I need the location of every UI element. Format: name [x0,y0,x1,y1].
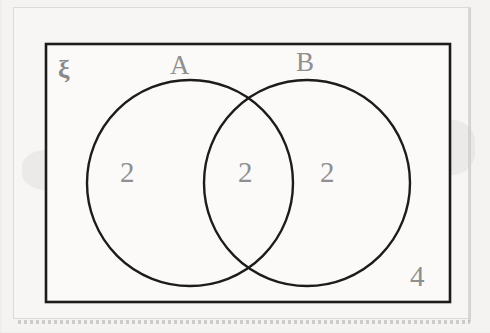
venn-diagram-page: ξ A B 2 2 2 4 [0,0,490,333]
region-count-b-only: 2 [320,158,335,187]
set-label-b: B [296,49,314,76]
set-label-a: A [170,52,190,79]
region-count-outside: 4 [410,262,425,291]
region-count-a-intersect-b: 2 [238,158,253,187]
region-count-a-only: 2 [120,158,135,187]
universal-set-symbol: ξ [58,57,70,83]
venn-figure: ξ A B 2 2 2 4 [0,0,490,333]
